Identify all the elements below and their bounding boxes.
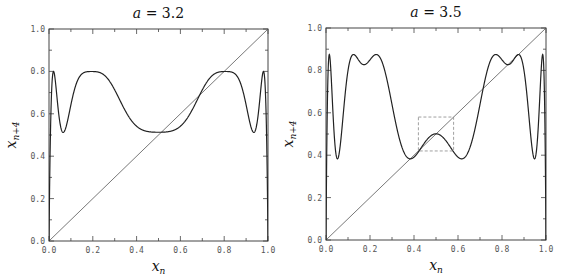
x-axis-label: xn — [429, 257, 443, 275]
chart-title: a = 3.5 — [410, 4, 461, 20]
y-tick-label: 0.2 — [308, 194, 323, 203]
y-tick-label: 0.2 — [31, 195, 46, 204]
y-tick-label: 0.4 — [31, 152, 46, 161]
y-axis-label: xn+4 — [280, 120, 298, 147]
x-tick-label: 0.4 — [407, 245, 422, 254]
x-tick-label: 0.0 — [42, 246, 57, 255]
y-tick-label: 0.8 — [308, 66, 323, 75]
y-axis-label: xn+4 — [3, 121, 21, 148]
x-tick-label: 1.0 — [261, 246, 276, 255]
x-tick-label: 0.2 — [363, 245, 378, 254]
x-tick-label: 0.8 — [495, 245, 510, 254]
y-tick-label: 0.0 — [308, 236, 323, 245]
x-tick-label: 0.8 — [217, 246, 232, 255]
y-tick-label: 1.0 — [31, 25, 46, 34]
chart-canvas: a = 3.20.00.20.40.60.81.00.00.20.40.60.8… — [0, 0, 564, 277]
diagonal-line — [49, 29, 268, 241]
x-tick-label: 0.2 — [86, 246, 101, 255]
y-tick-label: 0.8 — [31, 67, 46, 76]
y-tick-label: 0.6 — [308, 109, 323, 118]
x-axis-label: xn — [152, 258, 166, 276]
chart-panel-2: a = 3.50.00.20.40.60.81.00.00.20.40.60.8… — [280, 4, 553, 275]
y-tick-label: 0.6 — [31, 110, 46, 119]
x-tick-label: 0.6 — [173, 246, 188, 255]
y-tick-label: 0.4 — [308, 151, 323, 160]
y-tick-label: 1.0 — [308, 24, 323, 33]
chart-title: a = 3.2 — [133, 5, 184, 21]
x-tick-label: 0.0 — [319, 245, 334, 254]
chart-panel-1: a = 3.20.00.20.40.60.81.00.00.20.40.60.8… — [3, 5, 275, 276]
iterate-curve — [326, 55, 546, 241]
x-tick-label: 1.0 — [539, 245, 554, 254]
x-tick-label: 0.6 — [451, 245, 466, 254]
x-tick-label: 0.4 — [129, 246, 144, 255]
iterate-curve — [49, 71, 268, 241]
y-tick-label: 0.0 — [31, 237, 46, 246]
